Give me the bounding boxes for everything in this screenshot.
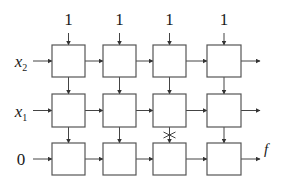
cell-r2-c3 [153, 94, 186, 127]
cell-r2-c1 [52, 94, 85, 127]
top-input-label: 1 [64, 10, 73, 29]
row-input-label: 0 [17, 150, 26, 169]
output-annotation: f [264, 141, 270, 157]
top-input-label: 1 [115, 10, 124, 29]
cell-r3-c2 [103, 143, 136, 175]
top-input-label: 1 [165, 10, 174, 29]
cell-r2-c4 [207, 94, 241, 127]
cell-r3-c4 [207, 143, 241, 175]
cell-r3-c3 [153, 143, 186, 175]
cell-r1-c2 [103, 45, 136, 77]
cell-r2-c2 [103, 94, 136, 127]
cell-r3-c1 [52, 143, 85, 175]
row-input-label: x2 [14, 52, 28, 73]
cell-r1-c1 [52, 45, 85, 77]
systolic-array-diagram: 1111x2x10f [0, 0, 286, 188]
row-input-label: x1 [14, 102, 28, 123]
cell-r1-c3 [153, 45, 186, 77]
top-input-label: 1 [220, 10, 229, 29]
cell-r1-c4 [207, 45, 241, 77]
